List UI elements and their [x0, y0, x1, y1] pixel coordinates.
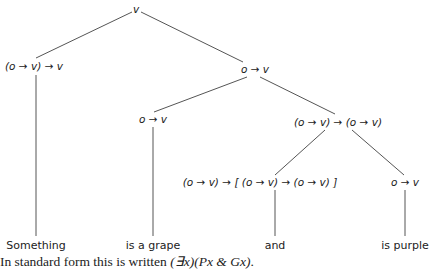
edge-root-right [141, 12, 243, 62]
edge-root-left [36, 12, 132, 58]
leaf-something: Something [6, 240, 66, 251]
caption: In standard form this is written (∃x)(Px… [0, 255, 254, 269]
node-grape-predicate: o → v [139, 114, 167, 125]
node-right-predicate: o → v [241, 64, 269, 75]
tree-edges [0, 0, 429, 273]
type-tree-diagram: v (o → v) → v o → v o → v (o → v) → (o →… [0, 0, 429, 273]
leaf-is-a-grape: is a grape [126, 240, 181, 251]
edge-right-grape [154, 77, 247, 112]
caption-prefix: In standard form this is written [0, 254, 170, 269]
leaf-is-purple: is purple [381, 240, 429, 251]
edge-conj-type [275, 130, 325, 175]
node-left-functor: (o → v) → v [5, 61, 63, 72]
node-purple-predicate: o → v [391, 177, 419, 188]
caption-suffix: . [250, 254, 253, 269]
node-conj-applied: (o → v) → (o → v) [294, 117, 382, 128]
caption-formula: (∃x)(Px & Gx) [170, 254, 250, 269]
node-root: v [133, 4, 139, 15]
edge-right-conj [260, 77, 335, 114]
leaf-and: and [265, 240, 286, 251]
node-conj-type: (o → v) → [ (o → v) → (o → v) ] [183, 177, 338, 188]
edge-conj-purple [352, 130, 404, 175]
